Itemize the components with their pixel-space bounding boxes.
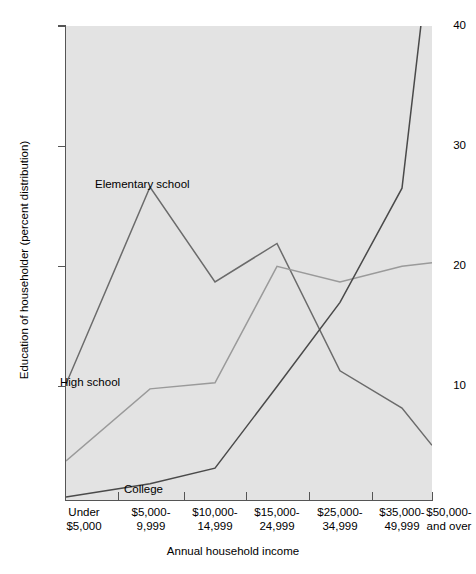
y-tick-label-20: 20 [430,260,466,271]
series-line-elementary-school [66,187,432,445]
y-tick-20 [58,266,66,267]
y-tick-40 [58,25,66,26]
series-label-high-school: High school [60,376,120,388]
y-axis-title: Education of householder (percent distri… [18,60,30,460]
x-axis-title: Annual household income [0,545,466,557]
line-chart-svg [66,26,432,500]
x-tick-label-6: $50,000-and over [412,506,476,533]
x-tick-4 [372,492,373,501]
x-tick-label-line: Under [47,506,121,520]
plot-area [66,26,432,500]
series-label-college: College [124,483,163,495]
x-tick-0 [118,492,119,501]
x-tick-label-line: 9,999 [114,520,188,534]
x-tick-label-line: $5,000- [114,506,188,520]
x-tick-5 [432,492,433,501]
y-tick-30 [58,146,66,147]
x-tick-label-0: Under$5,000 [47,506,121,533]
y-tick-label-40: 40 [430,20,466,31]
x-tick-1 [184,492,185,501]
x-tick-label-line: $50,000- [412,506,476,520]
x-tick-label-line: $5,000 [47,520,121,534]
x-tick-2 [246,492,247,501]
x-tick-label-1: $5,000-9,999 [114,506,188,533]
y-tick-label-10: 10 [430,380,466,391]
y-tick-label-30: 30 [430,140,466,151]
x-axis-line [65,500,433,501]
x-tick-3 [309,492,310,501]
x-tick-label-line: and over [412,520,476,534]
series-label-elementary-school: Elementary school [95,178,190,190]
series-line-high-school [66,263,432,461]
y-axis-line [65,26,66,501]
